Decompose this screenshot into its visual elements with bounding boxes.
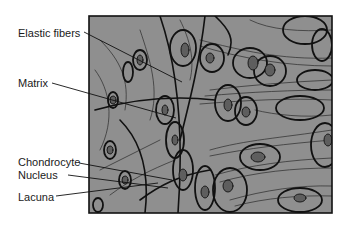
diagram-figure: Elastic fibers Matrix Chondrocyte Nucleu… [0, 0, 349, 232]
label-lacuna: Lacuna [18, 191, 54, 203]
label-nucleus: Nucleus [18, 169, 58, 181]
label-elastic-fibers: Elastic fibers [18, 27, 80, 39]
label-matrix: Matrix [18, 77, 48, 89]
label-chondrocyte: Chondrocyte [18, 156, 80, 168]
